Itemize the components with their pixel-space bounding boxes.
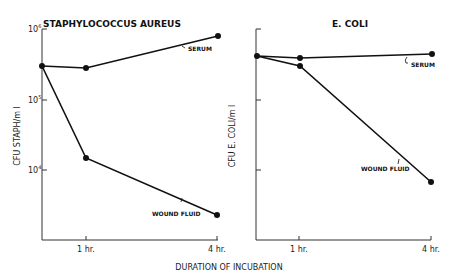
staph-xtick-4hr: 4 hr.: [208, 245, 226, 254]
figure: STAPHYLOCOCCUS AUREUS 106 105 104 CFU ST…: [0, 0, 454, 280]
ecoli-xtick-4hr: 4 hr.: [422, 245, 440, 254]
staph-ytick-1e5: 105: [28, 94, 41, 105]
ecoli-wound-line: [257, 56, 431, 182]
ecoli-y-label: CFU E. COLI/m l: [228, 105, 237, 168]
staph-wound-label: WOUND FLUID: [152, 210, 200, 217]
staph-panel: STAPHYLOCOCCUS AUREUS 106 105 104 CFU ST…: [13, 19, 226, 254]
staph-ytick-1e4: 104: [28, 164, 41, 175]
staph-title: STAPHYLOCOCCUS AUREUS: [43, 19, 181, 29]
staph-y-label: CFU STAPH/m l: [13, 106, 22, 166]
ecoli-serum-line: [257, 54, 432, 58]
staph-xtick-1hr: 1 hr.: [77, 245, 95, 254]
ecoli-xtick-1hr: 1 hr.: [290, 245, 308, 254]
staph-serum-label: SERUM: [188, 45, 212, 52]
staph-wound-line: [42, 66, 217, 215]
staph-serum-line: [42, 36, 218, 68]
ecoli-panel: E. COLI CFU E. COLI/m l 1 hr. 4 hr. SERU…: [228, 19, 440, 254]
x-axis-label: DURATION OF INCUBATION: [175, 263, 282, 272]
ecoli-title: E. COLI: [332, 19, 368, 29]
staph-ytick-1e6: 106: [28, 23, 41, 34]
ecoli-wound-label: WOUND FLUID: [361, 165, 409, 172]
ecoli-serum-label: SERUM: [411, 61, 435, 68]
